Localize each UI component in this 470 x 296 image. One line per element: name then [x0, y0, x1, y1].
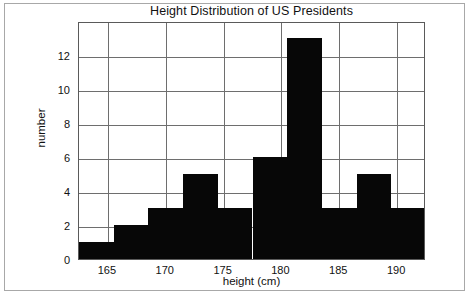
histogram-bar	[322, 208, 357, 259]
histogram-bar	[79, 242, 114, 259]
x-axis-label: height (cm)	[78, 275, 425, 287]
y-tick-label: 6	[36, 153, 70, 164]
histogram-bar	[148, 208, 183, 259]
x-tick-label: 185	[318, 265, 358, 276]
x-tick-label: 165	[87, 265, 127, 276]
histogram-bar	[183, 174, 218, 259]
histogram-bar	[357, 174, 392, 259]
histogram-bar	[218, 208, 253, 259]
x-tick-label: 180	[260, 265, 300, 276]
histogram-bars	[79, 23, 424, 259]
x-tick-label: 175	[203, 265, 243, 276]
histogram-bar	[114, 225, 149, 259]
histogram-bar	[287, 38, 322, 259]
y-tick-label: 10	[36, 85, 70, 96]
x-tick-label: 190	[376, 265, 416, 276]
histogram-bar	[391, 208, 425, 259]
y-tick-label: 0	[36, 255, 70, 266]
y-tick-label: 8	[36, 119, 70, 130]
x-tick-label: 170	[145, 265, 185, 276]
plot-area	[78, 22, 425, 260]
y-tick-label: 12	[36, 51, 70, 62]
y-tick-label: 2	[36, 221, 70, 232]
histogram-figure: Height Distribution of US Presidents num…	[0, 0, 470, 296]
histogram-bar	[253, 157, 288, 259]
chart-title: Height Distribution of US Presidents	[78, 4, 425, 18]
y-tick-label: 4	[36, 187, 70, 198]
